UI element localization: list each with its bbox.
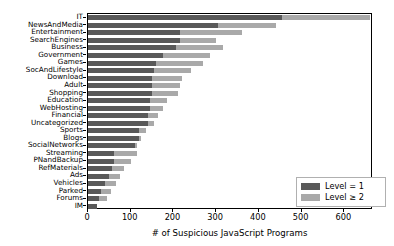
bar-uncategorized — [88, 121, 154, 126]
bar-segment-level-1 — [88, 30, 180, 35]
bar-segment-level-1 — [88, 166, 112, 171]
chart-figure: ITNewsAndMediaEntertainmentSearchEngines… — [0, 0, 394, 246]
bar-segment-level-1 — [88, 98, 150, 103]
bar-segment-level-1 — [88, 23, 218, 28]
bar-education — [88, 98, 167, 103]
bar-segment-level-1 — [88, 83, 152, 88]
y-tick-mark — [83, 62, 86, 63]
bar-parked — [88, 189, 111, 194]
bar-segment-level-2 — [135, 143, 137, 148]
bar-segment-level-1 — [88, 68, 154, 73]
bar-segment-level-1 — [88, 53, 163, 58]
bar-segment-level-2 — [139, 136, 141, 141]
bar-segment-level-2 — [150, 98, 167, 103]
y-tick-mark — [83, 145, 86, 146]
bar-segment-level-2 — [163, 53, 210, 58]
bar-it — [88, 15, 370, 20]
y-tick-mark — [83, 183, 86, 184]
bar-download — [88, 76, 182, 81]
bar-segment-level-2 — [105, 181, 116, 186]
bar-segment-level-1 — [88, 106, 150, 111]
bar-business — [88, 45, 223, 50]
bar-segment-level-1 — [88, 91, 152, 96]
y-tick-mark — [83, 190, 86, 191]
bar-socandlifestyle — [88, 68, 191, 73]
bar-segment-level-1 — [88, 76, 152, 81]
x-axis-title: # of Suspicious JavaScript Programs — [87, 228, 372, 238]
y-tick-mark — [83, 85, 86, 86]
x-tick-label-0: 0 — [84, 213, 89, 222]
legend-label-level-2: Level ≥ 2 — [325, 193, 364, 202]
bar-segment-level-2 — [148, 113, 159, 118]
y-tick-label-forums: Forums — [0, 194, 83, 201]
bar-segment-level-1 — [88, 151, 114, 156]
y-tick-mark — [83, 168, 86, 169]
y-tick-mark — [83, 137, 86, 138]
x-tick-label-500: 500 — [293, 213, 309, 222]
bar-segment-level-1 — [88, 121, 148, 126]
y-tick-mark — [83, 47, 86, 48]
bar-sports — [88, 128, 146, 133]
y-axis-tick-labels: ITNewsAndMediaEntertainmentSearchEngines… — [0, 13, 83, 209]
legend-swatch-level-2 — [301, 194, 320, 201]
bar-pnandbackup — [88, 159, 131, 164]
bar-segment-level-2 — [176, 45, 223, 50]
y-tick-mark — [83, 32, 86, 33]
bar-im — [88, 204, 97, 209]
bar-refmaterials — [88, 166, 124, 171]
legend-swatch-level-1 — [301, 183, 320, 190]
bar-searchengines — [88, 38, 216, 43]
bar-vehicles — [88, 181, 116, 186]
legend-label-level-1: Level = 1 — [325, 182, 364, 191]
bar-shopping — [88, 91, 178, 96]
bar-segment-level-1 — [88, 128, 139, 133]
legend-item-level-1: Level = 1 — [301, 181, 381, 192]
y-tick-mark — [83, 17, 86, 18]
bar-segment-level-1 — [88, 189, 101, 194]
bar-segment-level-2 — [139, 128, 145, 133]
y-tick-mark — [83, 39, 86, 40]
bar-segment-level-1 — [88, 61, 156, 66]
y-tick-mark — [83, 130, 86, 131]
bar-segment-level-2 — [150, 106, 163, 111]
y-tick-mark — [83, 205, 86, 206]
y-tick-label-im: IM — [0, 202, 83, 209]
bar-segment-level-1 — [88, 159, 114, 164]
bar-segment-level-2 — [109, 174, 120, 179]
x-tick-label-200: 200 — [165, 213, 181, 222]
y-tick-mark — [83, 198, 86, 199]
bar-ads — [88, 174, 120, 179]
y-tick-mark — [83, 24, 86, 25]
legend-item-level-2: Level ≥ 2 — [301, 192, 381, 203]
bar-segment-level-2 — [282, 15, 370, 20]
bar-games — [88, 61, 203, 66]
x-tick-label-300: 300 — [207, 213, 223, 222]
y-tick-mark — [83, 152, 86, 153]
bar-segment-level-1 — [88, 113, 148, 118]
bar-entertainment — [88, 30, 242, 35]
y-tick-mark — [83, 175, 86, 176]
bar-segment-level-2 — [152, 83, 180, 88]
y-tick-mark — [83, 77, 86, 78]
bar-segment-level-1 — [88, 196, 99, 201]
bar-segment-level-2 — [154, 68, 190, 73]
y-tick-mark — [83, 54, 86, 55]
y-tick-mark — [83, 122, 86, 123]
bar-segment-level-2 — [218, 23, 276, 28]
bar-segment-level-1 — [88, 204, 97, 209]
bar-segment-level-2 — [114, 151, 138, 156]
bar-adult — [88, 83, 180, 88]
bar-webhosting — [88, 106, 163, 111]
bar-forums — [88, 196, 107, 201]
bar-newsandmedia — [88, 23, 276, 28]
y-tick-mark — [83, 107, 86, 108]
bar-segment-level-2 — [112, 166, 125, 171]
bar-segment-level-1 — [88, 38, 180, 43]
y-tick-mark — [83, 70, 86, 71]
y-tick-mark — [83, 92, 86, 93]
bar-segment-level-2 — [180, 38, 216, 43]
y-tick-mark — [83, 160, 86, 161]
bar-segment-level-2 — [148, 121, 154, 126]
bar-segment-level-2 — [156, 61, 203, 66]
bar-segment-level-2 — [101, 189, 112, 194]
